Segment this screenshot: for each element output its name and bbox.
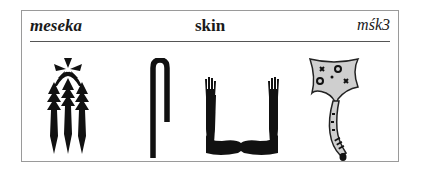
dictionary-entry-card: meseka skin mśk3 <box>21 10 399 162</box>
fox-skins-hieroglyph-icon <box>44 56 92 156</box>
code: mśk3 <box>357 16 390 34</box>
shepherds-crook-hieroglyph-icon <box>149 58 171 160</box>
arms-hieroglyph-icon <box>202 77 280 157</box>
entry-header: meseka skin mśk3 <box>30 11 390 41</box>
meaning: skin <box>30 16 390 36</box>
header-divider <box>30 41 390 42</box>
animal-hide-with-tail-hieroglyph-icon <box>306 57 362 163</box>
